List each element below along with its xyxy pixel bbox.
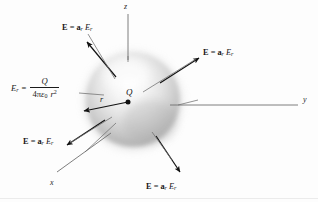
radius-label-r: r bbox=[100, 96, 103, 104]
field-label-upper-right: E = ar Er bbox=[203, 49, 233, 57]
axis-label-x: x bbox=[50, 179, 54, 187]
vector-E-symbol: E bbox=[203, 48, 209, 57]
unit-vector-subscript: r bbox=[81, 26, 83, 32]
field-magnitude-equation: Er = Q 4πε0r2 bbox=[11, 76, 59, 99]
unit-vector-subscript: r bbox=[222, 51, 224, 57]
equation-equals-sign: = bbox=[22, 83, 27, 93]
equals-sign: = bbox=[154, 182, 159, 191]
equals-sign: = bbox=[211, 48, 216, 57]
electric-field-diagram bbox=[0, 0, 318, 202]
vector-E-symbol: E bbox=[146, 182, 152, 191]
equation-denominator: 4πε0r2 bbox=[30, 88, 58, 99]
magnitude-subscript: r bbox=[174, 185, 176, 191]
equation-fraction: Q 4πε0r2 bbox=[30, 76, 58, 99]
scan-artifact-line bbox=[0, 198, 318, 199]
magnitude-subscript: r bbox=[90, 26, 92, 32]
vector-E-symbol: E bbox=[62, 23, 68, 32]
equals-sign: = bbox=[31, 137, 36, 146]
axis-x bbox=[57, 133, 111, 172]
equation-numerator: Q bbox=[36, 76, 54, 87]
equation-lhs-subscript: r bbox=[16, 87, 18, 93]
magnitude-subscript: r bbox=[231, 51, 233, 57]
vector-E-symbol: E bbox=[23, 137, 29, 146]
field-label-upper-left: E = ar Er bbox=[62, 24, 92, 32]
epsilon-subscript: 0 bbox=[44, 93, 47, 99]
equation-lhs: Er bbox=[11, 83, 19, 93]
unit-vector-subscript: r bbox=[42, 140, 44, 146]
field-label-lower-left: E = ar Er bbox=[23, 138, 53, 146]
figure-canvas: Er = Q 4πε0r2 z y x Q r E = ar Er E = ar… bbox=[0, 0, 318, 202]
field-label-lower-right: E = ar Er bbox=[146, 183, 176, 191]
magnitude-subscript: r bbox=[51, 140, 53, 146]
unit-vector-subscript: r bbox=[165, 185, 167, 191]
axis-label-z: z bbox=[124, 3, 127, 11]
axis-label-y: y bbox=[303, 96, 307, 104]
denominator-r-exponent: 2 bbox=[54, 89, 57, 95]
equals-sign: = bbox=[70, 23, 75, 32]
charge-label-Q: Q bbox=[126, 88, 133, 97]
